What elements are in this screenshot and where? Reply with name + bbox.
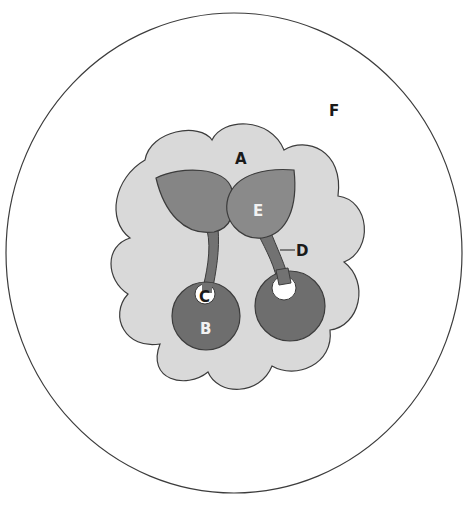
right-stem-tip: [276, 268, 291, 285]
set-diagram: A B C D E F: [0, 0, 464, 506]
label-b: B: [200, 320, 211, 338]
label-a: A: [235, 150, 247, 168]
label-d: D: [296, 242, 308, 260]
label-f: F: [329, 102, 339, 120]
label-e: E: [253, 202, 263, 220]
label-c: C: [199, 288, 210, 306]
